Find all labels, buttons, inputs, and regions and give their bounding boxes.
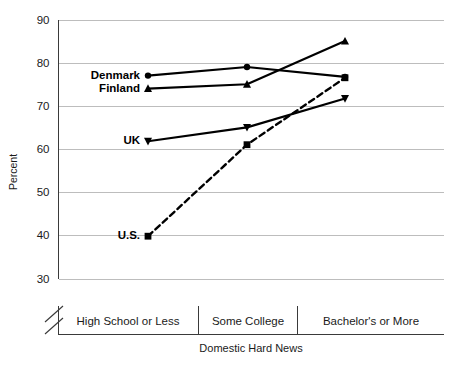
y-tick-label-90: 90 (37, 14, 50, 26)
category-label-1: Some College (212, 315, 284, 327)
x-axis-category-labels: High School or LessSome CollegeBachelor'… (77, 315, 420, 327)
category-label-0: High School or Less (77, 315, 180, 327)
y-tick-label-50: 50 (37, 186, 50, 198)
series-label-denmark: Denmark (91, 69, 141, 81)
y-axis-title: Percent (7, 154, 19, 190)
data-point-denmark-1 (244, 64, 250, 70)
y-tick-label-60: 60 (37, 143, 50, 155)
category-label-2: Bachelor's or More (323, 315, 419, 327)
series-label-finland: Finland (99, 82, 140, 94)
data-point-us-2 (342, 74, 349, 81)
line-chart: 30405060708090 DenmarkFinlandUKU.S. High… (0, 0, 455, 367)
chart-background (0, 0, 455, 367)
data-point-us-0 (145, 233, 152, 240)
y-tick-label-70: 70 (37, 100, 50, 112)
data-point-us-1 (244, 141, 251, 148)
series-label-us: U.S. (118, 229, 140, 241)
chart-container: 30405060708090 DenmarkFinlandUKU.S. High… (0, 0, 455, 367)
y-tick-label-30: 30 (37, 273, 50, 285)
x-axis-title: Domestic Hard News (199, 342, 303, 354)
y-tick-label-80: 80 (37, 57, 50, 69)
y-tick-label-40: 40 (37, 229, 50, 241)
data-point-denmark-0 (145, 72, 151, 78)
series-label-uk: UK (123, 134, 140, 146)
